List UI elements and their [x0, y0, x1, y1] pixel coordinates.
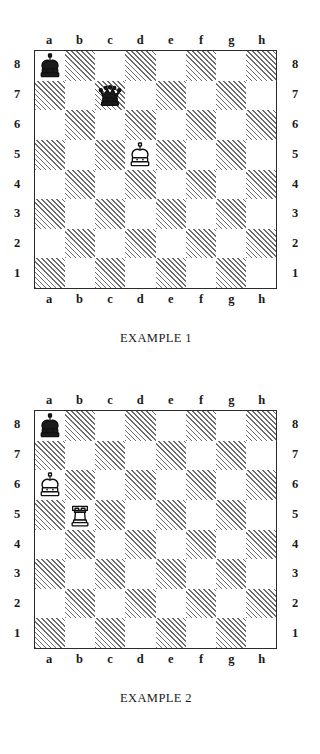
- square-e4[interactable]: [156, 170, 186, 200]
- chess-board[interactable]: [34, 50, 277, 289]
- square-f7[interactable]: [186, 441, 216, 471]
- square-d2[interactable]: [125, 229, 155, 259]
- square-h4[interactable]: [246, 530, 276, 560]
- square-e8[interactable]: [156, 411, 186, 441]
- square-h4[interactable]: [246, 170, 276, 200]
- square-e4[interactable]: [156, 530, 186, 560]
- square-g3[interactable]: [216, 199, 246, 229]
- square-d7[interactable]: [125, 441, 155, 471]
- square-g4[interactable]: [216, 170, 246, 200]
- square-h8[interactable]: [246, 411, 276, 441]
- chess-board[interactable]: [34, 410, 277, 649]
- square-b2[interactable]: [65, 589, 95, 619]
- square-f6[interactable]: [186, 110, 216, 140]
- square-f3[interactable]: [186, 199, 216, 229]
- square-g6[interactable]: [216, 470, 246, 500]
- square-e5[interactable]: [156, 140, 186, 170]
- square-a7[interactable]: [35, 81, 65, 111]
- square-c8[interactable]: [95, 411, 125, 441]
- square-f5[interactable]: [186, 500, 216, 530]
- square-c7[interactable]: [95, 441, 125, 471]
- square-f6[interactable]: [186, 470, 216, 500]
- black-queen-icon[interactable]: [97, 82, 124, 109]
- square-a8[interactable]: [35, 51, 65, 81]
- square-e2[interactable]: [156, 229, 186, 259]
- square-h3[interactable]: [246, 559, 276, 589]
- square-e5[interactable]: [156, 500, 186, 530]
- square-g5[interactable]: [216, 140, 246, 170]
- square-b3[interactable]: [65, 559, 95, 589]
- square-c5[interactable]: [95, 140, 125, 170]
- square-g4[interactable]: [216, 530, 246, 560]
- square-b7[interactable]: [65, 441, 95, 471]
- square-f8[interactable]: [186, 51, 216, 81]
- square-h3[interactable]: [246, 199, 276, 229]
- square-b6[interactable]: [65, 470, 95, 500]
- square-c4[interactable]: [95, 530, 125, 560]
- square-g2[interactable]: [216, 589, 246, 619]
- square-g8[interactable]: [216, 51, 246, 81]
- square-a7[interactable]: [35, 441, 65, 471]
- square-g6[interactable]: [216, 110, 246, 140]
- square-a2[interactable]: [35, 589, 65, 619]
- square-b3[interactable]: [65, 199, 95, 229]
- square-c4[interactable]: [95, 170, 125, 200]
- square-d1[interactable]: [125, 258, 155, 288]
- square-b6[interactable]: [65, 110, 95, 140]
- square-b5[interactable]: [65, 140, 95, 170]
- square-d6[interactable]: [125, 110, 155, 140]
- square-f7[interactable]: [186, 81, 216, 111]
- square-h1[interactable]: [246, 258, 276, 288]
- square-b8[interactable]: [65, 411, 95, 441]
- white-rook-icon[interactable]: [67, 501, 94, 528]
- square-g5[interactable]: [216, 500, 246, 530]
- square-f4[interactable]: [186, 530, 216, 560]
- square-d6[interactable]: [125, 470, 155, 500]
- black-king-icon[interactable]: [37, 412, 64, 439]
- square-a5[interactable]: [35, 140, 65, 170]
- square-d1[interactable]: [125, 618, 155, 648]
- square-a6[interactable]: [35, 110, 65, 140]
- square-f2[interactable]: [186, 229, 216, 259]
- square-b4[interactable]: [65, 530, 95, 560]
- square-c8[interactable]: [95, 51, 125, 81]
- square-h2[interactable]: [246, 589, 276, 619]
- square-c6[interactable]: [95, 110, 125, 140]
- white-king-icon[interactable]: [127, 141, 154, 168]
- square-c1[interactable]: [95, 258, 125, 288]
- square-b5[interactable]: [65, 500, 95, 530]
- square-g8[interactable]: [216, 411, 246, 441]
- square-d4[interactable]: [125, 170, 155, 200]
- square-c6[interactable]: [95, 470, 125, 500]
- square-a3[interactable]: [35, 559, 65, 589]
- square-f1[interactable]: [186, 258, 216, 288]
- square-a1[interactable]: [35, 618, 65, 648]
- square-d5[interactable]: [125, 140, 155, 170]
- square-b4[interactable]: [65, 170, 95, 200]
- square-e3[interactable]: [156, 199, 186, 229]
- square-f1[interactable]: [186, 618, 216, 648]
- square-a6[interactable]: [35, 470, 65, 500]
- square-d8[interactable]: [125, 51, 155, 81]
- square-a3[interactable]: [35, 199, 65, 229]
- square-g7[interactable]: [216, 441, 246, 471]
- square-e2[interactable]: [156, 589, 186, 619]
- square-a2[interactable]: [35, 229, 65, 259]
- white-king-icon[interactable]: [37, 472, 64, 499]
- square-b1[interactable]: [65, 618, 95, 648]
- square-g3[interactable]: [216, 559, 246, 589]
- square-h6[interactable]: [246, 470, 276, 500]
- square-a8[interactable]: [35, 411, 65, 441]
- square-c3[interactable]: [95, 199, 125, 229]
- black-king-icon[interactable]: [37, 52, 64, 79]
- square-c5[interactable]: [95, 500, 125, 530]
- square-e7[interactable]: [156, 441, 186, 471]
- square-f8[interactable]: [186, 411, 216, 441]
- square-h8[interactable]: [246, 51, 276, 81]
- square-a4[interactable]: [35, 170, 65, 200]
- square-b8[interactable]: [65, 51, 95, 81]
- square-d7[interactable]: [125, 81, 155, 111]
- square-h7[interactable]: [246, 81, 276, 111]
- square-b7[interactable]: [65, 81, 95, 111]
- square-e1[interactable]: [156, 258, 186, 288]
